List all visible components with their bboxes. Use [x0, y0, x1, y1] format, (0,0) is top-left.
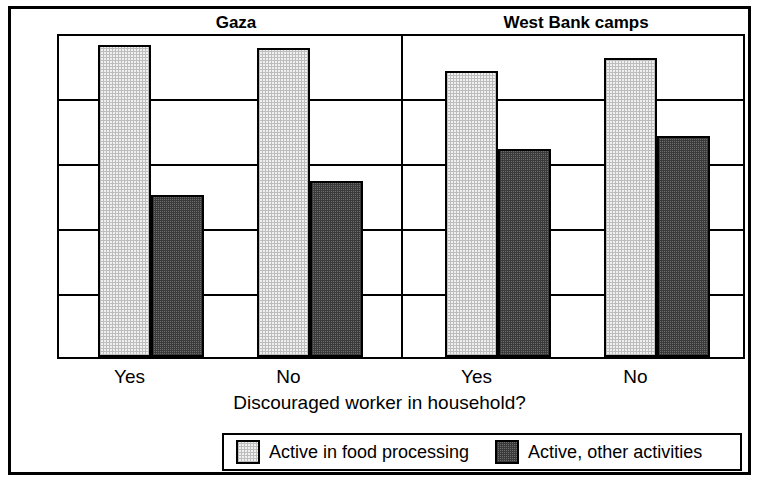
- panel-title-gaza: Gaza: [66, 13, 406, 33]
- legend-entry-other-activities: Active, other activities: [495, 440, 702, 464]
- bar-west-bank-no-food-processing: [604, 58, 657, 357]
- legend-entry-food-processing: Active in food processing: [236, 440, 469, 464]
- plot-area: [57, 34, 745, 359]
- legend-label-other-activities: Active, other activities: [528, 442, 702, 463]
- bar-gaza-no-other-activities: [310, 181, 363, 357]
- bar-gaza-no-food-processing: [257, 48, 310, 357]
- x-tick-label-gaza-no: No: [216, 366, 361, 388]
- legend-swatch-light-icon: [236, 440, 260, 464]
- legend-swatch-dark-icon: [495, 440, 519, 464]
- panel-title-west-bank-camps: West Bank camps: [401, 13, 751, 33]
- bar-gaza-yes-food-processing: [98, 45, 151, 357]
- chart-figure: Gaza West Bank camps 100 80 60 40 20 0 Y…: [8, 6, 751, 475]
- bar-west-bank-no-other-activities: [657, 136, 710, 357]
- bar-west-bank-yes-other-activities: [498, 149, 551, 357]
- x-axis-title: Discouraged worker in household?: [11, 392, 748, 414]
- x-tick-label-west-bank-yes: Yes: [404, 366, 549, 388]
- x-tick-label-west-bank-no: No: [563, 366, 708, 388]
- x-tick-label-gaza-yes: Yes: [57, 366, 202, 388]
- bar-west-bank-yes-food-processing: [445, 71, 498, 357]
- chart-legend: Active in food processing Active, other …: [222, 433, 742, 471]
- bar-gaza-yes-other-activities: [151, 195, 204, 357]
- legend-label-food-processing: Active in food processing: [269, 442, 469, 463]
- panel-divider: [401, 36, 403, 357]
